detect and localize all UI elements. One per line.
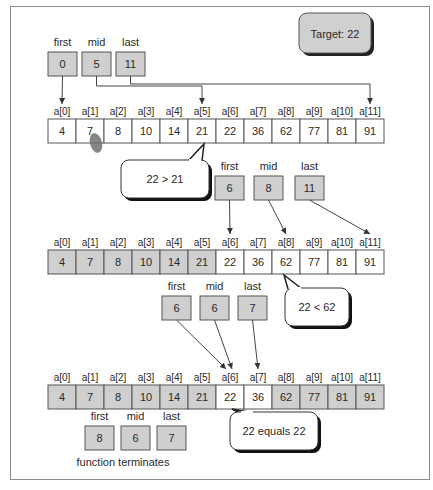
mid-value: 6 <box>132 432 138 444</box>
arrow-first-step3 <box>177 320 227 369</box>
array-index: a[10] <box>331 237 353 248</box>
array-value: 36 <box>252 256 264 268</box>
last-label: last <box>244 280 261 292</box>
array-cell: 77a[9] <box>300 372 328 409</box>
mid-pointer-box: mid5 <box>82 36 111 76</box>
array-value: 91 <box>364 391 376 403</box>
function-terminates-caption: function terminates <box>77 456 170 468</box>
array-value: 36 <box>252 391 264 403</box>
array-cell: 7a[1] <box>76 237 104 274</box>
array-row-3: 4a[0]7a[1]8a[2]10a[3]14a[4]21a[5]22a[6]3… <box>48 372 384 409</box>
array-value: 10 <box>140 391 152 403</box>
last-pointer-box: last7 <box>238 280 267 320</box>
array-value: 4 <box>59 125 65 137</box>
array-index: a[3] <box>138 372 155 383</box>
array-index: a[8] <box>278 106 295 117</box>
array-cell: 21a[5] <box>188 106 216 143</box>
array-cell: 10a[3] <box>132 106 160 143</box>
comparison-bubble-step2: 22 < 62 <box>284 275 352 329</box>
last-value: 11 <box>304 182 315 194</box>
array-value: 77 <box>308 125 320 137</box>
array-index: a[4] <box>166 106 183 117</box>
mid-label: mid <box>127 410 145 422</box>
pointer-group-step-3: first6mid6last7 <box>162 280 267 320</box>
array-cell: 14a[4] <box>160 372 188 409</box>
comparison-bubble-step2-text: 22 < 62 <box>298 301 335 313</box>
array-value: 81 <box>336 391 348 403</box>
array-cell: 4a[0] <box>48 106 76 143</box>
array-value: 62 <box>280 125 292 137</box>
first-pointer-box: first0 <box>48 36 77 76</box>
array-index: a[3] <box>138 106 155 117</box>
array-cell: 91a[11] <box>356 106 384 143</box>
first-label: first <box>91 410 109 422</box>
array-index: a[10] <box>331 106 353 117</box>
array-cell: 4a[0] <box>48 372 76 409</box>
array-cell: 10a[3] <box>132 372 160 409</box>
array-index: a[9] <box>306 106 323 117</box>
array-value: 77 <box>308 256 320 268</box>
array-cell: 7a[1] <box>76 372 104 409</box>
array-value: 36 <box>252 125 264 137</box>
array-index: a[6] <box>222 106 239 117</box>
array-value: 91 <box>364 125 376 137</box>
mid-value: 8 <box>265 182 271 194</box>
array-index: a[1] <box>82 237 99 248</box>
array-cell: 8a[2] <box>104 372 132 409</box>
mid-value: 5 <box>93 58 99 70</box>
array-cell: 14a[4] <box>160 106 188 143</box>
arrow-last-step1 <box>131 76 371 104</box>
mid-label: mid <box>88 36 106 48</box>
array-index: a[1] <box>82 106 99 117</box>
array-value: 62 <box>280 391 292 403</box>
first-label: first <box>54 36 72 48</box>
pointer-group-step-2: first6mid8last11 <box>215 160 324 200</box>
array-cell: 8a[2] <box>104 237 132 274</box>
array-cell: 81a[10] <box>328 237 356 274</box>
array-cell: 21a[5] <box>188 372 216 409</box>
first-label: first <box>221 160 239 172</box>
array-value: 91 <box>364 256 376 268</box>
arrow-mid-step3 <box>215 320 233 369</box>
array-row-2: 4a[0]7a[1]8a[2]10a[3]14a[4]21a[5]22a[6]3… <box>48 237 384 274</box>
array-index: a[11] <box>359 237 381 248</box>
array-index: a[8] <box>278 237 295 248</box>
first-value: 6 <box>173 302 179 314</box>
array-cell: 8a[2] <box>104 106 132 143</box>
array-cell: 62a[8] <box>272 237 300 274</box>
array-value: 77 <box>308 391 320 403</box>
mid-pointer-box: mid8 <box>254 160 283 200</box>
last-pointer-box: last7 <box>157 410 186 450</box>
last-value: 7 <box>168 432 174 444</box>
arrow-first-step1 <box>62 76 63 104</box>
array-index: a[11] <box>359 372 381 383</box>
array-value: 22 <box>224 125 236 137</box>
array-cell: 36a[7] <box>244 106 272 143</box>
arrow-last-step2 <box>310 200 371 234</box>
array-index: a[6] <box>222 372 239 383</box>
array-cell: 91a[11] <box>356 237 384 274</box>
array-value: 10 <box>140 125 152 137</box>
array-cell: 22a[6] <box>216 106 244 143</box>
array-index: a[0] <box>54 237 71 248</box>
last-label: last <box>122 36 139 48</box>
binary-search-diagram: Target: 22 4a[0]7a[1]8a[2]10a[3]14a[4]21… <box>0 0 433 490</box>
array-index: a[2] <box>110 237 127 248</box>
array-cell: 36a[7] <box>244 237 272 274</box>
array-index: a[0] <box>54 106 71 117</box>
array-cell: 81a[10] <box>328 106 356 143</box>
array-index: a[9] <box>306 237 323 248</box>
comparison-bubble-step3: 22 equals 22 <box>230 409 321 453</box>
comparison-bubble-step3-text: 22 equals 22 <box>243 425 306 437</box>
array-value: 10 <box>140 256 152 268</box>
array-value: 62 <box>280 256 292 268</box>
array-cell: 62a[8] <box>272 106 300 143</box>
last-pointer-box: last11 <box>295 160 324 200</box>
array-index: a[1] <box>82 372 99 383</box>
first-value: 8 <box>96 432 102 444</box>
array-index: a[9] <box>306 372 323 383</box>
array-index: a[4] <box>166 237 183 248</box>
last-label: last <box>163 410 180 422</box>
array-index: a[7] <box>250 237 267 248</box>
array-cell: 81a[10] <box>328 372 356 409</box>
